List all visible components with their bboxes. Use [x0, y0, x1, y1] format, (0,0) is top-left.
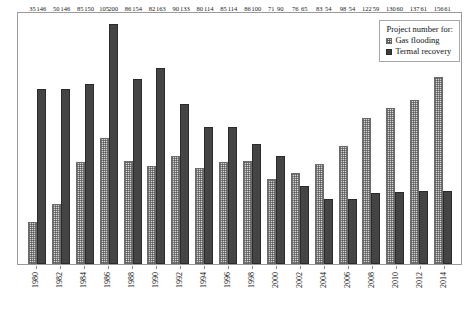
x-tick-mark: [132, 266, 133, 269]
bar: [443, 191, 452, 264]
x-tick-group: 1992: [168, 266, 192, 318]
bar: [300, 186, 309, 264]
bar: [395, 192, 404, 264]
x-tick-group: 1986: [96, 266, 120, 318]
bar-wrapper: 200: [109, 14, 118, 264]
bar-value-label: 35: [29, 5, 36, 13]
bar-value-label: 163: [156, 5, 166, 13]
bar: [28, 222, 37, 264]
bar: [76, 162, 85, 264]
legend-title: Project number for:: [386, 24, 453, 35]
bar-wrapper: 54: [324, 14, 333, 264]
bar-value-label: 150: [84, 5, 94, 13]
x-tick-label: 2008: [368, 272, 376, 288]
bar-wrapper: 114: [228, 14, 237, 264]
bar-value-label: 146: [60, 5, 70, 13]
x-tick-label: 2002: [296, 272, 304, 288]
x-tick-label: 1992: [176, 272, 184, 288]
x-tick-label: 1998: [248, 272, 256, 288]
bar-group: 86100: [240, 14, 264, 264]
x-tick-group: 2008: [360, 266, 384, 318]
bar-group: 82163: [144, 14, 168, 264]
bar-group: 80114: [192, 14, 216, 264]
bar-wrapper: 90: [171, 14, 180, 264]
x-tick-group: 2014: [432, 266, 456, 318]
bar-wrapper: 146: [61, 14, 70, 264]
bar-value-label: 133: [180, 5, 190, 13]
bar: [52, 204, 61, 264]
bar-group: 8354: [312, 14, 336, 264]
x-tick-group: 1996: [216, 266, 240, 318]
bar-group: 9854: [336, 14, 360, 264]
x-tick-label: 1980: [32, 272, 40, 288]
bar: [276, 156, 285, 264]
bar: [410, 100, 419, 264]
x-tick-mark: [276, 266, 277, 269]
bar-wrapper: 100: [252, 14, 261, 264]
bar-value-label: 154: [132, 5, 142, 13]
bar: [267, 179, 276, 264]
x-tick-mark: [420, 266, 421, 269]
bar: [195, 168, 204, 264]
bar: [133, 79, 142, 264]
bar-wrapper: 105: [100, 14, 109, 264]
bar: [243, 161, 252, 264]
bar-group: 7190: [264, 14, 288, 264]
legend-item-gas-flooding: Gas flooding: [386, 35, 453, 46]
x-tick-mark: [84, 266, 85, 269]
x-tick-group: 2010: [384, 266, 408, 318]
bar: [315, 164, 324, 264]
x-tick-mark: [156, 266, 157, 269]
bar-group: 35146: [25, 14, 49, 264]
bar-value-label: 54: [325, 5, 332, 13]
bar-value-label: 71: [268, 5, 275, 13]
bar: [252, 144, 261, 264]
bar-group: 85114: [216, 14, 240, 264]
x-tick-mark: [60, 266, 61, 269]
chart-legend: Project number for: Gas flooding Termal …: [379, 20, 460, 62]
hatched-light-square-icon: [386, 38, 392, 44]
bar: [156, 68, 165, 264]
x-tick-group: 1988: [120, 266, 144, 318]
solid-dark-square-icon: [386, 49, 392, 55]
bar-wrapper: 146: [37, 14, 46, 264]
bar-wrapper: 76: [291, 14, 300, 264]
bar: [362, 118, 371, 264]
bar-value-label: 130: [386, 5, 396, 13]
bar: [434, 77, 443, 264]
bar-value-label: 137: [410, 5, 420, 13]
bar-wrapper: 122: [362, 14, 371, 264]
bar-value-label: 54: [349, 5, 356, 13]
bar-wrapper: 83: [315, 14, 324, 264]
x-tick-mark: [348, 266, 349, 269]
bar-wrapper: 114: [204, 14, 213, 264]
bar-value-label: 83: [316, 5, 323, 13]
x-tick-label: 2004: [320, 272, 328, 288]
bar: [204, 127, 213, 264]
legend-item-label: Gas flooding: [395, 35, 439, 46]
bar: [371, 193, 380, 264]
bar-group: 7665: [288, 14, 312, 264]
legend-item-termal-recovery: Termal recovery: [386, 46, 453, 57]
bar: [61, 89, 70, 264]
x-tick-group: 2006: [336, 266, 360, 318]
bar: [171, 156, 180, 264]
x-tick-group: 1982: [48, 266, 72, 318]
bar-value-label: 50: [53, 5, 60, 13]
x-tick-group: 1990: [144, 266, 168, 318]
bar-chart-figure: 3514650146851501052008615482163901338011…: [0, 0, 474, 318]
bar-value-label: 86: [244, 5, 251, 13]
bar-value-label: 65: [301, 5, 308, 13]
bar-wrapper: 86: [243, 14, 252, 264]
bar-wrapper: 85: [219, 14, 228, 264]
bar: [324, 199, 333, 264]
x-tick-label: 1996: [224, 272, 232, 288]
bar-value-label: 61: [444, 5, 451, 13]
x-tick-group: 2012: [408, 266, 432, 318]
bar-wrapper: 90: [276, 14, 285, 264]
bar-value-label: 114: [204, 5, 214, 13]
x-tick-mark: [324, 266, 325, 269]
bar-value-label: 76: [292, 5, 299, 13]
bar: [85, 84, 94, 264]
x-tick-group: 1980: [24, 266, 48, 318]
